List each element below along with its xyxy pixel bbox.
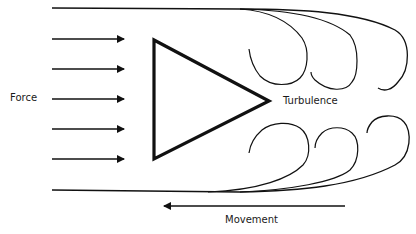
turbulence-label: Turbulence [283,95,338,106]
force-label: Force [10,92,37,103]
top-flow-line [52,8,407,90]
triangle-object [154,40,269,159]
bottom-flow-line [52,116,409,192]
force-arrows [52,39,124,159]
movement-label: Movement [225,214,278,225]
airflow-diagram [0,0,416,234]
